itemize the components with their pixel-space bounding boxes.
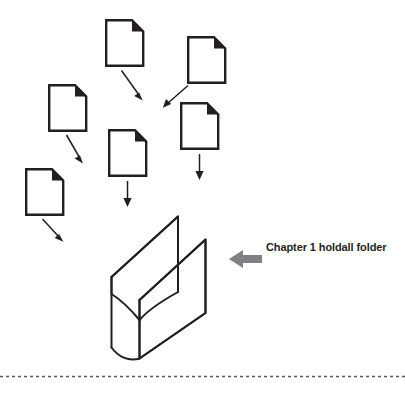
document-icon-left-upper bbox=[49, 85, 86, 131]
figure-canvas: Chapter 1 holdall folder bbox=[0, 0, 405, 397]
flow-arrow-from-center bbox=[123, 181, 131, 207]
document-icon-top-center bbox=[106, 20, 143, 66]
arrow-head bbox=[195, 171, 203, 180]
arrow-head bbox=[55, 234, 64, 242]
folder-bottom-curve bbox=[112, 348, 140, 360]
flow-arrow-from-top-center bbox=[122, 71, 143, 101]
callout-arrow-icon bbox=[229, 250, 262, 268]
arrow-head bbox=[75, 155, 83, 163]
arrow-shaft bbox=[43, 219, 59, 237]
flow-arrow-from-middle-right bbox=[195, 154, 203, 180]
document-icon-center bbox=[109, 130, 146, 176]
arrow-head bbox=[134, 93, 143, 101]
arrow-shaft bbox=[122, 71, 140, 96]
arrow-head bbox=[123, 198, 131, 207]
left-arrow-icon bbox=[229, 250, 262, 268]
flow-arrow-from-left-upper bbox=[67, 135, 84, 164]
arrow-head bbox=[163, 99, 171, 108]
document-icon-top-right bbox=[188, 37, 225, 83]
flow-arrow-from-left-lower bbox=[43, 219, 64, 242]
callout-label-text: Chapter 1 holdall folder bbox=[266, 241, 386, 254]
document-icon-middle-right bbox=[181, 103, 218, 149]
diagram-svg bbox=[0, 0, 405, 397]
document-icon-left-lower bbox=[26, 169, 63, 215]
holdall-folder-illustration bbox=[112, 217, 206, 360]
arrow-shaft bbox=[168, 86, 189, 104]
arrow-shaft bbox=[67, 135, 80, 158]
